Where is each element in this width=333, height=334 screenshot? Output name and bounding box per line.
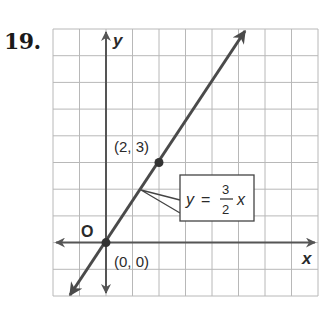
point-origin	[102, 238, 111, 247]
equation-var: x	[236, 191, 246, 208]
point-label-2-3: (2, 3)	[114, 138, 149, 155]
x-axis-label: x	[301, 249, 313, 268]
callout-pointer	[141, 190, 180, 213]
equation-denominator: 2	[222, 202, 229, 217]
coordinate-graph: y x O (2, 3) (0, 0) y = 3 2 x	[0, 0, 333, 334]
y-axis-label: y	[112, 31, 124, 50]
point-2-3	[155, 158, 164, 167]
equation-lhs: y	[185, 191, 195, 208]
point-label-0-0: (0, 0)	[114, 253, 149, 270]
equation-numerator: 3	[222, 182, 229, 197]
equation-eq: =	[201, 191, 210, 208]
grid	[53, 29, 318, 296]
origin-label: O	[81, 223, 93, 240]
